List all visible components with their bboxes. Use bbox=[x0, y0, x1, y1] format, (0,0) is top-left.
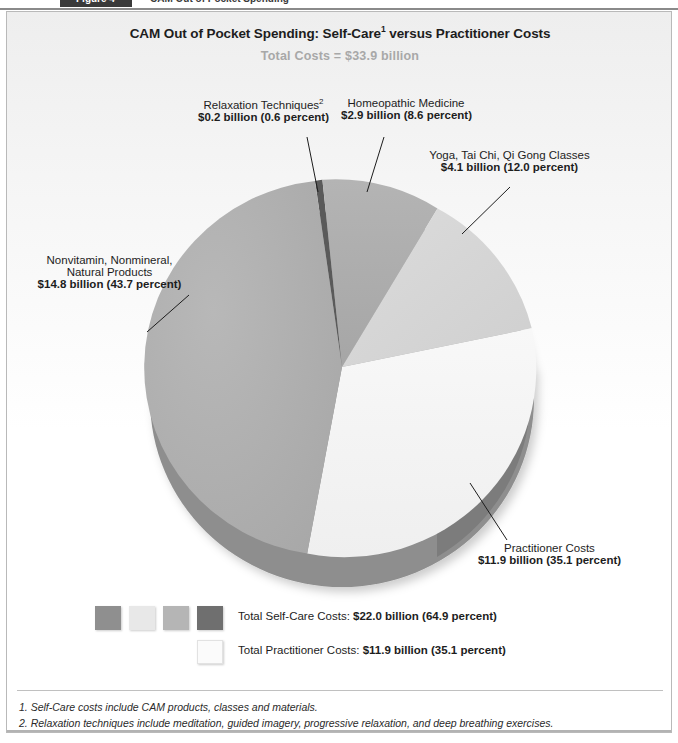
callout-homeopathic-name: Homeopathic Medicine bbox=[341, 97, 471, 109]
footnotes: 1. Self-Care costs include CAM products,… bbox=[19, 699, 659, 731]
leader-line-yoga bbox=[462, 187, 510, 234]
callout-homeopathic-value: $2.9 billion (8.6 percent) bbox=[341, 109, 471, 121]
callout-nonvitamin-name-line1: Nonvitamin, Nonmineral, bbox=[17, 254, 202, 266]
footnote-divider bbox=[17, 690, 663, 691]
footnote-2: 2. Relaxation techniques include meditat… bbox=[19, 715, 659, 731]
legend-swatch-self-care-1 bbox=[95, 606, 121, 630]
legend-swatches-practitioner bbox=[197, 640, 231, 664]
figure-number-label: Figure 4 bbox=[76, 0, 115, 6]
callout-practitioner: Practitioner Costs $11.9 billion (35.1 p… bbox=[462, 542, 637, 566]
chart-panel: CAM Out of Pocket Spending: Self-Care1 v… bbox=[6, 11, 672, 733]
callout-relaxation-name-text: Relaxation Techniques bbox=[204, 99, 320, 111]
callout-yoga: Yoga, Tai Chi, Qi Gong Classes $4.1 bill… bbox=[427, 149, 592, 173]
pie-slice-nonvitamin[interactable] bbox=[144, 181, 342, 554]
callout-nonvitamin-value: $14.8 billion (43.7 percent) bbox=[17, 278, 202, 290]
legend-swatch-self-care-2 bbox=[129, 606, 155, 630]
callout-relaxation-value: $0.2 billion (0.6 percent) bbox=[191, 111, 336, 123]
figure-caption-strip: Figure 4 CAM Out of Pocket Spending bbox=[0, 0, 678, 11]
callout-homeopathic: Homeopathic Medicine $2.9 billion (8.6 p… bbox=[341, 97, 471, 121]
legend-label-self-care: Total Self-Care Costs: bbox=[238, 610, 350, 622]
callout-relaxation: Relaxation Techniques2 $0.2 billion (0.6… bbox=[191, 97, 336, 123]
legend-swatch-practitioner-1 bbox=[197, 640, 223, 664]
legend-swatch-self-care-3 bbox=[163, 606, 189, 630]
legend-text-practitioner: Total Practitioner Costs: $11.9 billion … bbox=[238, 644, 506, 656]
pie-slices bbox=[144, 179, 536, 557]
footnote-1: 1. Self-Care costs include CAM products,… bbox=[19, 699, 659, 715]
legend-row-practitioner: Total Practitioner Costs: $11.9 billion … bbox=[95, 638, 595, 672]
legend-value-practitioner: $11.9 billion (35.1 percent) bbox=[363, 644, 506, 656]
legend-row-self-care: Total Self-Care Costs: $22.0 billion (64… bbox=[95, 604, 595, 638]
legend-swatch-self-care-4 bbox=[197, 606, 223, 630]
callout-nonvitamin-name-line2: Natural Products bbox=[17, 266, 202, 278]
chart-legend: Total Self-Care Costs: $22.0 billion (64… bbox=[95, 604, 595, 672]
callout-yoga-name: Yoga, Tai Chi, Qi Gong Classes bbox=[427, 149, 592, 161]
callout-practitioner-value: $11.9 billion (35.1 percent) bbox=[462, 554, 637, 566]
callout-relaxation-footnote-ref: 2 bbox=[319, 97, 323, 106]
legend-label-practitioner: Total Practitioner Costs: bbox=[238, 644, 359, 656]
legend-text-self-care: Total Self-Care Costs: $22.0 billion (64… bbox=[238, 610, 497, 622]
legend-value-self-care: $22.0 billion (64.9 percent) bbox=[353, 610, 497, 622]
callout-yoga-value: $4.1 billion (12.0 percent) bbox=[427, 161, 592, 173]
callout-practitioner-name: Practitioner Costs bbox=[462, 542, 637, 554]
callout-relaxation-name: Relaxation Techniques2 bbox=[191, 97, 336, 111]
caption-divider bbox=[0, 8, 678, 10]
legend-swatches-self-care bbox=[95, 606, 231, 630]
figure-caption-title: CAM Out of Pocket Spending bbox=[150, 0, 289, 6]
callout-nonvitamin: Nonvitamin, Nonmineral, Natural Products… bbox=[17, 254, 202, 290]
panel-bottom-rule bbox=[7, 730, 672, 732]
